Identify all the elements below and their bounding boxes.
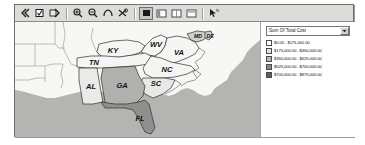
legend-swatch-icon [266, 56, 272, 62]
toolbar-separator [134, 8, 136, 19]
svg-text:N: N [216, 8, 219, 13]
map-canvas[interactable]: KY WV VA MD DE TN NC SC AL GA FL [15, 22, 260, 137]
state-label-tn: TN [89, 58, 100, 67]
state-label-de: DE [206, 33, 214, 39]
state-label-wv: WV [150, 40, 163, 49]
legend-item[interactable]: $525,000.00 - $700,000.00 [266, 63, 352, 70]
legend-item-label: $0.00 - $175,000.00 [274, 40, 310, 46]
legend-item-label: $350,000.00 - $525,000.00 [274, 56, 322, 62]
legend-swatch-icon [266, 48, 272, 54]
field-selector-value: Sum Of Total Cost [267, 27, 306, 35]
legend-panel: Sum Of Total Cost $0.00 - $175,000.00 $1… [260, 22, 355, 137]
legend-item-label: $175,000.00 - $350,000.00 [274, 48, 322, 54]
legend-item-label: $525,000.00 - $700,000.00 [274, 64, 322, 70]
map-graphic: KY WV VA MD DE TN NC SC AL GA FL [15, 22, 260, 137]
state-label-al: AL [85, 82, 96, 91]
zoom-in-icon-button[interactable] [71, 7, 85, 20]
legend-item[interactable]: $350,000.00 - $525,000.00 [266, 55, 352, 62]
toolbar-separator [202, 8, 204, 19]
toolbar-separator [66, 8, 68, 19]
pan-hand-icon-button[interactable] [101, 7, 115, 20]
back-arrow-icon-button[interactable] [18, 7, 32, 20]
legend-class-list: $0.00 - $175,000.00 $175,000.00 - $350,0… [266, 39, 352, 79]
layer-full-icon-button[interactable] [139, 7, 153, 20]
pointer-label-icon-button[interactable]: N [207, 7, 221, 20]
field-selector-dropdown[interactable]: Sum Of Total Cost [266, 26, 350, 36]
state-label-ky: KY [108, 46, 119, 55]
state-label-ga: GA [116, 81, 127, 90]
state-label-nc: NC [162, 65, 173, 74]
zoom-out-icon-button[interactable] [86, 7, 100, 20]
legend-swatch-icon [266, 40, 272, 46]
layer-wide-icon-button[interactable] [184, 7, 198, 20]
layer-grid-icon-button[interactable] [169, 7, 183, 20]
state-label-fl: FL [135, 114, 145, 123]
legend-swatch-icon [266, 64, 272, 70]
chevron-down-icon[interactable] [340, 27, 349, 35]
toolbar: N [15, 5, 353, 22]
map-application-window: N [14, 4, 354, 137]
zoom-extent-icon-button[interactable] [116, 7, 130, 20]
checkbox-icon-button[interactable] [33, 7, 47, 20]
state-label-sc: SC [151, 79, 162, 88]
state-label-va: VA [174, 48, 184, 57]
legend-item[interactable]: $175,000.00 - $350,000.00 [266, 47, 352, 54]
legend-item-label: $700,000.00 - $875,000.00 [274, 72, 322, 78]
layer-left-icon-button[interactable] [154, 7, 168, 20]
legend-item[interactable]: $0.00 - $175,000.00 [266, 39, 352, 46]
forward-arrow-icon-button[interactable] [48, 7, 62, 20]
state-label-md: MD [194, 33, 202, 39]
legend-swatch-icon [266, 72, 272, 78]
legend-item[interactable]: $700,000.00 - $875,000.00 [266, 71, 352, 78]
